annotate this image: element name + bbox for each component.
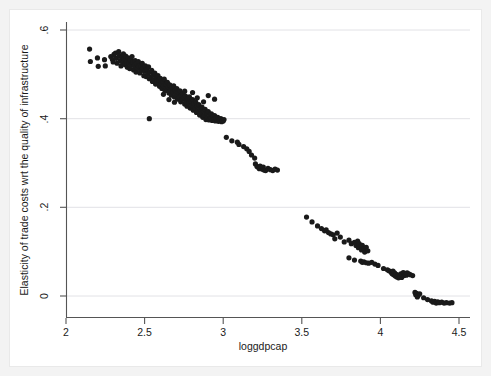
plot-canvas [0,0,491,376]
scatter-point [103,63,108,68]
scatter-point [375,263,380,268]
y-axis-tick-label: 0 [32,289,56,303]
x-axis-tick-label: 4 [360,325,400,339]
y-axis-tick-label: .6 [32,23,56,37]
x-axis-tick-label: 3.5 [282,325,322,339]
scatter-point [332,236,337,241]
scatter-point [449,300,454,305]
scatter-point [346,255,351,260]
y-axis-tick-label: .4 [32,112,56,126]
scatter-point [182,89,187,94]
x-axis-tick-label: 2.5 [125,325,165,339]
y-axis-tick-label: .2 [32,200,56,214]
scatter-point [201,99,206,104]
scatter-point [95,55,100,60]
scatter-point [236,142,241,147]
scatter-point [212,97,217,102]
scatter-point [147,116,152,121]
data-points [87,46,455,305]
scatter-point [190,90,195,95]
scatter-point [338,234,343,239]
scatter-point [221,117,226,122]
x-axis-tick-label: 3 [203,325,243,339]
y-axis-title: Elasticity of trade costs wrt the qualit… [14,10,34,330]
scatter-point [206,93,211,98]
scatter-point [410,273,415,278]
scatter-point [224,135,229,140]
scatter-point [166,97,171,102]
scatter-point [365,248,370,253]
scatter-point [417,291,422,296]
x-axis-tick-label: 4.5 [439,325,479,339]
scatter-point [96,64,101,69]
x-axis-tick-label: 2 [46,325,86,339]
scatter-point [172,100,177,105]
scatter-point [304,214,309,219]
scatter-point [352,257,357,262]
scatter-point [161,92,166,97]
scatter-point [102,57,107,62]
scatter-point [252,156,257,161]
x-axis-title: loggdpcap [66,340,460,352]
scatter-point [88,59,93,64]
scatter-point [87,46,92,51]
scatter-plot-figure: Elasticity of trade costs wrt the qualit… [0,0,491,376]
scatter-point [195,95,200,100]
scatter-point [275,167,280,172]
scatter-point [309,219,314,224]
scatter-point [342,239,347,244]
scatter-point [229,138,234,143]
